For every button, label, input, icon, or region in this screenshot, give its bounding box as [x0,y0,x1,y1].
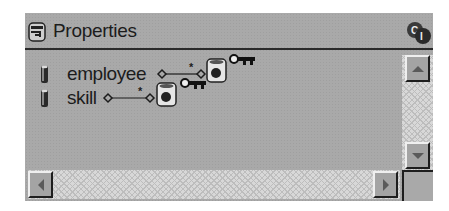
scroll-left-button[interactable] [28,171,53,198]
svg-text:*: * [138,85,143,97]
properties-panel: Properties C I employee * [25,13,433,201]
key-icon [229,53,257,67]
column-cylinder-icon [40,89,49,108]
arrow-right-icon [379,178,393,192]
scroll-up-button[interactable] [405,55,430,82]
arrow-up-icon [411,62,425,76]
svg-text:*: * [189,61,194,73]
scroll-right-button[interactable] [373,171,398,198]
class-interface-icon[interactable]: C I [405,20,433,46]
database-table-icon[interactable] [205,57,229,85]
horizontal-scrollbar[interactable] [28,170,400,199]
column-cylinder-icon [40,65,49,84]
row-label: employee [67,63,146,85]
key-icon [180,77,208,91]
panel-title: Properties [53,20,137,42]
scroll-down-button[interactable] [405,142,430,169]
database-table-icon[interactable] [155,81,179,109]
panel-header: Properties C I [25,13,433,50]
vertical-scrollbar[interactable] [402,55,433,170]
properties-list: employee * [25,50,402,170]
scrollbar-corner [402,170,433,201]
database-key-icon [28,21,46,43]
row-label: skill [67,87,97,109]
svg-text:I: I [420,31,423,42]
arrow-down-icon [411,149,425,163]
arrow-left-icon [34,178,48,192]
